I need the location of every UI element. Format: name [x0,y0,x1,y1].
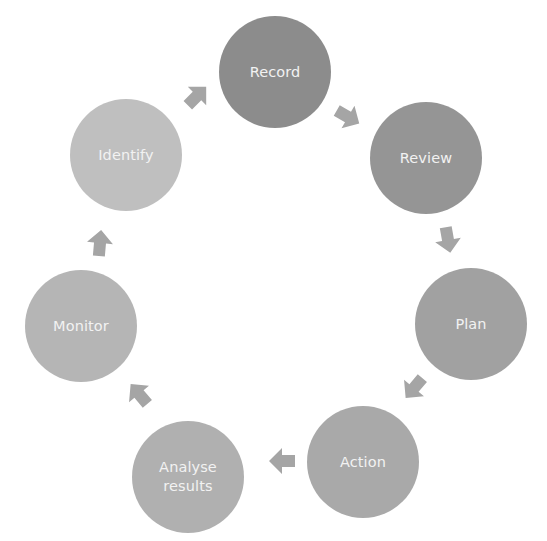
arrow-action-to-analyse-icon [267,446,297,476]
arrow-record-to-review-icon [328,97,369,138]
node-plan: Plan [415,268,527,380]
node-plan-label: Plan [455,315,486,334]
node-monitor: Monitor [25,270,137,382]
cycle-diagram: Record Review Plan Action Analyse result… [0,0,547,541]
node-identify: Identify [70,99,182,211]
node-review-label: Review [400,149,452,168]
node-record-label: Record [250,63,301,82]
arrow-analyse-to-monitor-icon [118,373,160,415]
arrow-review-to-plan-icon [431,223,466,258]
node-action-label: Action [340,453,386,472]
arrow-identify-to-record-icon [176,75,218,117]
arrow-plan-to-action-icon [393,367,435,409]
node-action: Action [307,406,419,518]
node-identify-label: Identify [98,146,154,165]
node-analyse-results: Analyse results [132,421,244,533]
node-analyse-results-label: Analyse results [159,458,217,496]
node-monitor-label: Monitor [53,317,109,336]
node-review: Review [370,102,482,214]
arrow-monitor-to-identify-icon [84,227,117,260]
node-record: Record [219,16,331,128]
